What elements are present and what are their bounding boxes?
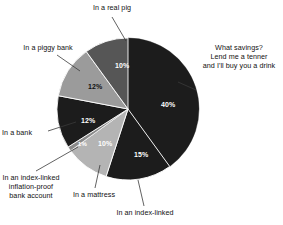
callout-label-what-savings-line2: Lend me a tenner: [196, 52, 282, 61]
callout-label-what-savings: What savings? Lend me a tenner and I'll …: [196, 43, 282, 71]
callout-label-index-linked-inflation-line2: inflation-proof: [0, 182, 62, 191]
callout-label-index-linked-inflation-line3: bank account: [0, 191, 62, 200]
callout-label-what-savings-line1: What savings?: [196, 43, 282, 52]
pie-value-piggy-bank: 12%: [88, 83, 102, 90]
pie-value-bank: 12%: [81, 117, 95, 124]
pie-slices: [57, 38, 199, 180]
callout-label-mattress: In a mattress: [62, 190, 126, 199]
pie-value-mattress: 10%: [98, 140, 112, 147]
leader-line-real-pig: [112, 17, 126, 41]
callout-label-what-savings-line3: and I'll buy you a drink: [196, 61, 282, 70]
pie-chart-figure: 40% 15% 10% 1% 12% 12% 10% In a real pig…: [0, 0, 283, 225]
callout-label-index-linked-inflation-line1: In an index-linked: [0, 173, 62, 182]
callout-label-bank: In a bank: [2, 128, 52, 137]
pie-value-index-linked-inflation: 1%: [78, 141, 87, 147]
pie-value-index-linked: 15%: [134, 151, 148, 158]
leader-line-index-linked: [138, 180, 144, 206]
leader-line-index-linked-inflation: [36, 147, 78, 171]
callout-label-index-linked: In an index-linked: [110, 208, 180, 217]
pie-value-real-pig: 10%: [115, 62, 129, 69]
callout-label-piggy-bank: In a piggy bank: [8, 43, 88, 52]
pie-value-what-savings: 40%: [161, 101, 175, 108]
callout-label-real-pig: In a real pig: [72, 3, 152, 12]
callout-label-index-linked-inflation: In an index-linked inflation-proof bank …: [0, 173, 62, 201]
